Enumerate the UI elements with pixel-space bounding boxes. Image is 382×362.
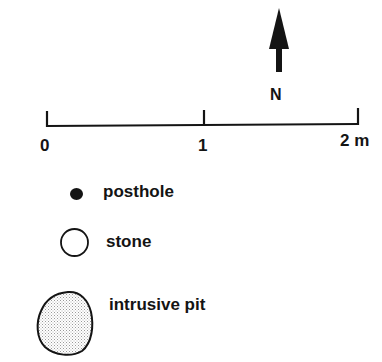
legend-label-stone: stone [106, 233, 151, 250]
legend-label-posthole: posthole [103, 183, 174, 200]
posthole-symbol [70, 188, 83, 200]
intrusive-pit-symbol [38, 292, 93, 355]
scale-label-1: 1 [198, 137, 207, 154]
north-label: N [270, 87, 282, 103]
north-arrow-icon [269, 8, 289, 72]
scale-bar [47, 108, 358, 127]
legend-label-intrusive-pit: intrusive pit [109, 296, 205, 313]
scale-label-0: 0 [40, 137, 49, 154]
scale-label-2m: 2 m [340, 132, 369, 149]
stone-symbol [61, 229, 88, 256]
